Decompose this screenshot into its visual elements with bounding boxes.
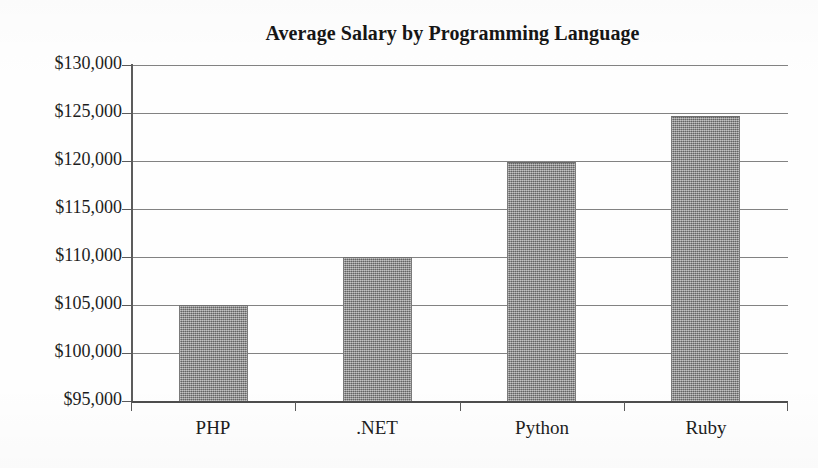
y-axis-tick-label: $100,000: [0, 341, 122, 362]
gridline: [131, 65, 788, 66]
y-axis-tick-mark: [122, 113, 132, 114]
bar-ruby: [671, 116, 740, 401]
y-axis-tick-mark: [122, 161, 132, 162]
salary-bar-chart: Average Salary by Programming Language $…: [0, 0, 818, 468]
y-axis-tick-mark: [122, 65, 132, 66]
x-axis-tick-label: Python: [462, 417, 622, 439]
y-axis-tick-label: $110,000: [0, 245, 122, 266]
y-axis-tick-label: $125,000: [0, 101, 122, 122]
y-axis-tick-mark: [122, 353, 132, 354]
y-axis-tick-label: $130,000: [0, 53, 122, 74]
bar-net: [343, 257, 412, 401]
y-axis-tick-label: $95,000: [0, 389, 122, 410]
x-axis-tick-mark: [460, 402, 461, 411]
x-axis-tick-mark: [295, 402, 296, 411]
y-axis-tick-label: $120,000: [0, 149, 122, 170]
x-axis-tick-mark: [787, 402, 788, 411]
y-axis-tick-mark: [122, 257, 132, 258]
y-axis-tick-label: $105,000: [0, 293, 122, 314]
x-axis-tick-label: PHP: [133, 417, 293, 439]
y-axis-tick-mark: [122, 209, 132, 210]
bar-php: [179, 305, 248, 401]
x-axis-tick-mark: [131, 402, 132, 411]
y-axis-tick-mark: [122, 305, 132, 306]
chart-title: Average Salary by Programming Language: [0, 22, 818, 45]
gridline: [131, 113, 788, 114]
y-axis-tick-label: $115,000: [0, 197, 122, 218]
bar-python: [507, 162, 576, 401]
x-axis-tick-label: .NET: [297, 417, 457, 439]
x-axis-tick-mark: [624, 402, 625, 411]
x-axis-tick-label: Ruby: [626, 417, 786, 439]
